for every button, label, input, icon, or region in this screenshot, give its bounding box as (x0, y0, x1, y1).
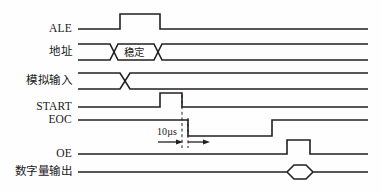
waveform-ale (78, 14, 368, 29)
duration-annotation-10us: 10µs (157, 127, 177, 137)
waveform-analog-input (78, 73, 368, 89)
eoc-trace (78, 120, 368, 136)
address-trace-lower (78, 44, 368, 60)
digital-output-trace-upper (78, 165, 368, 172)
ale-trace (78, 14, 368, 29)
signal-label-address: 地址 (49, 46, 72, 58)
address-trace-upper (78, 44, 368, 60)
signal-label-oe: OE (56, 148, 72, 160)
timing-reference-lines (182, 95, 188, 148)
waveform-oe (78, 140, 368, 154)
signal-label-start: START (36, 101, 72, 113)
signal-label-ale: ALE (49, 23, 72, 35)
waveform-eoc (78, 120, 368, 136)
signal-label-digital-output: 数字量输出 (15, 166, 72, 178)
start-trace (78, 93, 368, 107)
waveform-address (78, 44, 368, 60)
waveform-start (78, 93, 368, 107)
signal-label-analog-input: 模拟输入 (26, 75, 72, 87)
waveform-digital-output (78, 165, 368, 179)
digital-output-trace-lower (287, 172, 313, 179)
duration-measure-10us (158, 139, 210, 144)
address-valid-annotation: 稳定 (124, 47, 145, 58)
signal-label-eoc: EOC (48, 114, 72, 126)
measure-arrow-right-head (203, 139, 210, 144)
oe-trace (78, 140, 368, 154)
timing-diagram-figure: ALE 地址 模拟输入 START EOC OE 数字量输出 稳定 10µs (0, 0, 381, 192)
